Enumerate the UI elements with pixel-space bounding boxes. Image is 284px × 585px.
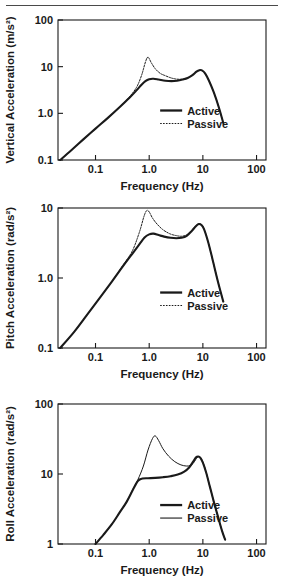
x-tick-label: 1.0 xyxy=(142,163,157,175)
x-tick-label: 10 xyxy=(197,351,209,363)
y-tick-label: 100 xyxy=(35,14,53,26)
legend-label-passive: Passive xyxy=(187,300,228,312)
legend: ActivePassive xyxy=(160,287,228,312)
legend: ActivePassive xyxy=(160,499,228,524)
y-tick-label: 10 xyxy=(41,202,53,214)
x-tick-label: 10 xyxy=(197,547,209,559)
y-tick-label: 100 xyxy=(35,398,53,410)
y-tick-label: 0.1 xyxy=(38,342,53,354)
y-tick-label: 10 xyxy=(41,468,53,480)
x-axis-title: Frequency (Hz) xyxy=(120,564,203,576)
legend-label-active: Active xyxy=(187,499,220,511)
x-tick-label: 10 xyxy=(197,163,209,175)
header-rule xyxy=(6,5,278,6)
x-tick-label: 100 xyxy=(247,163,265,175)
x-tick-label: 0.1 xyxy=(88,547,103,559)
y-axis-title: Pitch Acceleration (rad/s²) xyxy=(4,207,16,349)
series-passive-curve xyxy=(60,210,223,348)
plot-roll: 0.11.010100110100ActivePassiveFrequency … xyxy=(0,396,284,582)
y-tick-label: 1.0 xyxy=(38,272,53,284)
x-tick-label: 1.0 xyxy=(142,351,157,363)
y-tick-label: 1 xyxy=(47,538,53,550)
x-tick-label: 100 xyxy=(247,351,265,363)
legend-label-passive: Passive xyxy=(187,512,228,524)
x-tick-label: 0.1 xyxy=(88,163,103,175)
x-axis-title: Frequency (Hz) xyxy=(120,368,203,380)
legend-label-passive: Passive xyxy=(187,118,228,130)
chart-roll-acceleration: 0.11.010100110100ActivePassiveFrequency … xyxy=(0,396,284,582)
y-axis-title: Roll Acceleration (rad/s²) xyxy=(4,406,16,542)
x-tick-label: 0.1 xyxy=(88,351,103,363)
chart-pitch-acceleration: 0.11.0101000.11.010ActivePassiveFrequenc… xyxy=(0,200,284,380)
x-tick-label: 100 xyxy=(247,547,265,559)
y-axis-title: Vertical Acceleration (m/s²) xyxy=(4,16,16,163)
x-tick-label: 1.0 xyxy=(142,547,157,559)
legend-label-active: Active xyxy=(187,287,220,299)
y-tick-label: 1.0 xyxy=(38,107,53,119)
legend-label-active: Active xyxy=(187,105,220,117)
chart-vertical-acceleration: 0.11.0101000.11.010100ActivePassiveFrequ… xyxy=(0,12,284,192)
y-tick-label: 0.1 xyxy=(38,154,53,166)
x-axis-title: Frequency (Hz) xyxy=(120,180,203,192)
y-tick-label: 10 xyxy=(41,61,53,73)
series-passive-curve xyxy=(96,436,226,544)
plot-vertical: 0.11.0101000.11.010100ActivePassiveFrequ… xyxy=(0,12,284,192)
legend: ActivePassive xyxy=(160,105,228,130)
plot-pitch: 0.11.0101000.11.010ActivePassiveFrequenc… xyxy=(0,200,284,380)
